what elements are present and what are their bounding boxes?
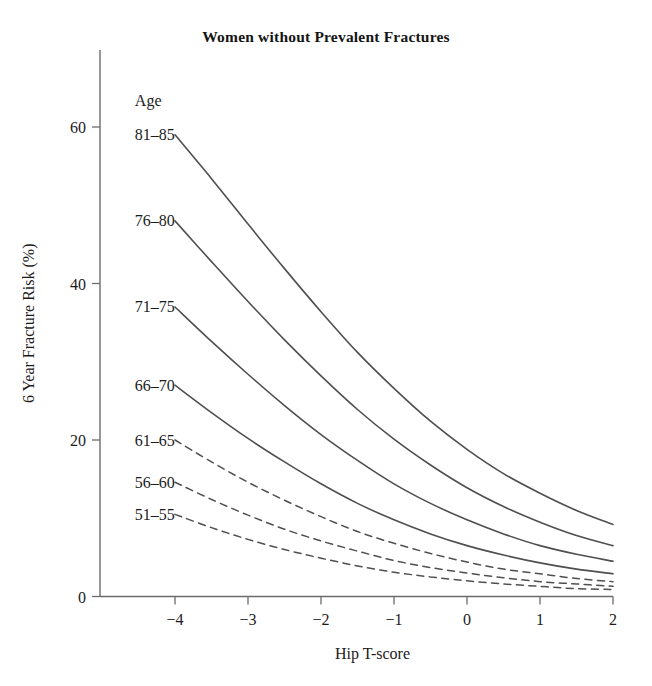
series-label: 66–70 [135,377,175,394]
legend-title: Age [135,92,162,110]
series-curves [175,135,613,590]
x-tick-label: −3 [239,611,256,628]
x-axis-title: Hip T-score [335,645,410,663]
chart-figure: Women without Prevalent Fractures −4−3−2… [0,0,652,686]
series-curve [175,440,613,582]
x-tick-label: 2 [609,611,617,628]
series-curve [175,482,613,586]
series-label: 71–75 [135,298,175,315]
x-tick-label: −1 [385,611,402,628]
series-label: 61–65 [135,432,175,449]
series-labels: Age81–8576–8071–7566–7061–6556–6051–55 [135,92,175,523]
x-tick-label: −2 [312,611,329,628]
series-label: 56–60 [135,474,175,491]
y-tick-label: 0 [78,589,86,606]
y-axis-title: 6 Year Fracture Risk (%) [20,243,38,403]
y-tick-label: 60 [70,119,86,136]
y-tick-label: 20 [70,432,86,449]
axes: −4−3−2−10120204060Hip T-score6 Year Frac… [20,50,617,663]
series-label: 81–85 [135,126,175,143]
series-label: 51–55 [135,506,175,523]
series-curve [175,135,613,525]
x-tick-label: 1 [536,611,544,628]
series-label: 76–80 [135,212,175,229]
x-tick-label: 0 [463,611,471,628]
x-tick-label: −4 [166,611,183,628]
plot-area: −4−3−2−10120204060Hip T-score6 Year Frac… [0,0,652,686]
y-tick-label: 40 [70,276,86,293]
series-curve [175,385,613,574]
